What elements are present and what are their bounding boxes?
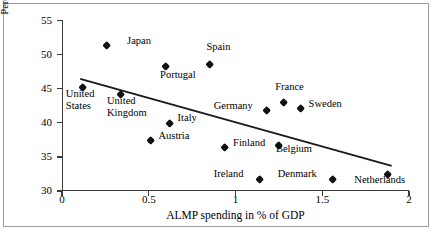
data-point-marker [255,175,264,184]
y-tick-label: 55 [30,15,52,26]
data-point-label: France [275,81,304,93]
x-tick-label: 0.5 [137,194,161,205]
data-point-label: Sweden [309,98,342,110]
data-point-label: Finland [233,137,265,149]
y-tick-label: 50 [30,49,52,60]
data-point-label: Spain [206,41,230,53]
data-point-label-line2: States [66,100,95,112]
data-point-label-line2: Kingdom [107,107,147,119]
y-tick-mark [57,122,62,123]
data-point-label: Denmark [278,168,317,180]
x-tick-label: 1 [224,194,248,205]
data-point-label: Austria [158,130,189,142]
y-tick-mark [57,20,62,21]
x-tick-label: 1.5 [310,194,334,205]
figure-scatter-plot: Percentage of workers feeling insecure a… [0,0,434,232]
data-point-marker [279,99,288,108]
data-point-marker [146,136,155,145]
data-point-marker [262,106,271,115]
data-point-marker [221,144,230,153]
y-tick-label: 40 [30,117,52,128]
data-point-label: Belgium [276,143,312,155]
data-point-marker [328,175,337,184]
y-tick-label: 30 [30,185,52,196]
data-point-label: Netherlands [354,174,405,186]
y-tick-mark [57,54,62,55]
data-point-marker [165,119,174,128]
data-point-marker [103,41,112,50]
trendline [80,79,391,166]
data-point-label-line1: United [107,95,147,107]
y-tick-label: 35 [30,151,52,162]
data-point-label: UnitedStates [66,88,95,111]
y-tick-mark [57,88,62,89]
data-point-label: Italy [178,112,197,124]
y-tick-label: 45 [30,83,52,94]
x-tick-label: 2 [397,194,421,205]
data-point-label: Japan [127,35,151,47]
data-point-marker [296,104,305,113]
data-point-label: Ireland [214,168,244,180]
x-tick-label: 0 [50,194,74,205]
data-point-label-line1: United [66,88,95,100]
y-tick-mark [57,156,62,157]
data-point-label: Portugal [160,69,196,81]
data-point-marker [205,60,214,69]
data-point-label: Germany [214,100,253,112]
data-point-label: UnitedKingdom [107,95,147,118]
